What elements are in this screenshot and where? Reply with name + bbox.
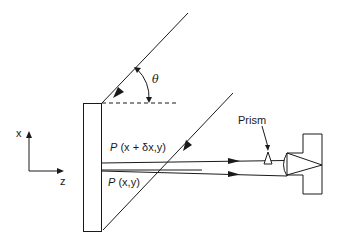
axis-z-label: z [60, 176, 66, 187]
axis-x-arrowhead [26, 131, 32, 138]
axis-x-label: x [16, 128, 22, 139]
angle-arc [137, 69, 149, 100]
point-upper-coords: (x + δx,y) [120, 141, 166, 153]
prism-label: Prism [238, 115, 266, 126]
theta-label: θ [152, 74, 159, 85]
point-lower-P: P [108, 176, 115, 188]
angle-arc-arrow-bottom [146, 97, 152, 103]
axis-z-arrowhead [57, 168, 64, 174]
point-lower-label: P (x,y) [108, 177, 140, 188]
specimen-plate [84, 104, 102, 232]
prism-icon [264, 152, 272, 164]
camera-body [287, 134, 322, 194]
beam-upper-arrowhead [228, 158, 240, 164]
prism-pointer-arrow [262, 126, 268, 147]
point-upper-label: P (x + δx,y) [110, 142, 166, 153]
point-lower-coords: (x,y) [118, 176, 139, 188]
optical-diagram: θ P (x + δx,y) P (x,y) Prism x z [0, 0, 337, 243]
prism-pointer-head [265, 145, 270, 151]
point-upper-P: P [110, 141, 117, 153]
beam-lower-arrowhead [228, 171, 240, 177]
incident-lower-arrowhead [183, 140, 192, 151]
diagram-canvas [0, 0, 337, 243]
incident-upper-arrowhead [113, 87, 124, 98]
incident-beam-upper [102, 13, 188, 103]
